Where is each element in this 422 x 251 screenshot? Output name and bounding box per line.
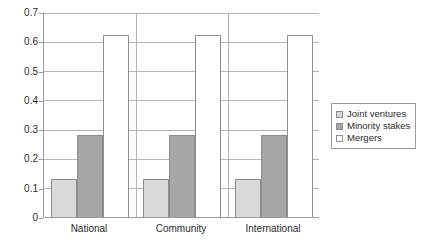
y-axis-tick-label: 0.2 [4, 154, 38, 164]
bar-group [44, 13, 136, 217]
bar [143, 179, 169, 217]
bar-chart-figure: 00.10.20.30.40.50.60.7 NationalCommunity… [0, 0, 422, 251]
legend-swatch-icon [336, 135, 343, 142]
legend-item-label: Mergers [347, 133, 382, 143]
y-axis-tick-mark [39, 218, 43, 219]
legend-item[interactable]: Joint ventures [336, 108, 410, 120]
chart-legend: Joint venturesMinority stakesMergers [331, 103, 416, 149]
x-axis-tick-label: National [71, 224, 108, 234]
plot-area [43, 13, 319, 218]
bar-group [228, 13, 320, 217]
legend-item[interactable]: Minority stakes [336, 120, 410, 132]
bar-group-bars [228, 13, 320, 217]
legend-swatch-icon [336, 123, 343, 130]
bar [169, 135, 195, 217]
bar [287, 35, 313, 217]
y-axis-tick-label: 0.5 [4, 67, 38, 77]
bar [51, 179, 77, 217]
bar [195, 35, 221, 217]
y-axis-tick-label: 0.1 [4, 184, 38, 194]
bar-group [136, 13, 228, 217]
x-axis-tick-label: Community [156, 224, 207, 234]
bar [261, 135, 287, 217]
bar [77, 135, 103, 217]
bar-group-bars [136, 13, 228, 217]
y-axis-tick-label: 0 [4, 213, 38, 223]
bar-group-bars [44, 13, 136, 217]
legend-item-label: Joint ventures [347, 109, 406, 119]
y-axis-tick-label: 0.6 [4, 37, 38, 47]
bar [103, 35, 129, 217]
y-axis-tick-label: 0.7 [4, 8, 38, 18]
legend-swatch-icon [336, 111, 343, 118]
bar [235, 179, 261, 217]
legend-item-label: Minority stakes [347, 121, 410, 131]
legend-item[interactable]: Mergers [336, 132, 410, 144]
x-axis-tick-label: International [245, 224, 300, 234]
y-axis-tick-label: 0.4 [4, 96, 38, 106]
y-axis-tick-label: 0.3 [4, 125, 38, 135]
